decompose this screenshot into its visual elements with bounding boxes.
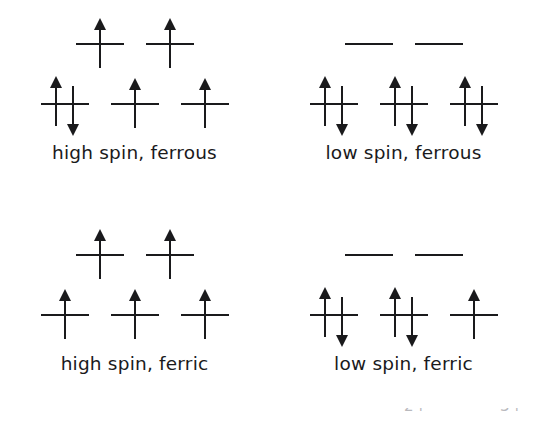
electron-arrow-up: [128, 78, 142, 130]
config-label: high spin, ferrous: [0, 142, 269, 163]
electron-arrow-up: [93, 229, 107, 281]
orbital-t2g-1: [307, 78, 361, 134]
orbital-line: [345, 254, 393, 256]
orbital-level-eg: [0, 229, 269, 285]
electron-arrow-down: [335, 84, 349, 136]
electron-arrow-up: [58, 289, 72, 341]
orbital-t2g-2: [377, 289, 431, 345]
orbital-eg-2: [143, 18, 197, 74]
orbital-line: [345, 43, 393, 45]
electron-arrow-up: [163, 18, 177, 70]
orbital-eg-1: [342, 18, 396, 74]
orbital-eg-2: [143, 229, 197, 285]
electron-arrow-down: [475, 84, 489, 136]
electron-arrow-up: [163, 229, 177, 281]
electron-arrow-up: [198, 289, 212, 341]
electron-arrow-up: [318, 76, 332, 128]
electron-arrow-up: [93, 18, 107, 70]
orbital-eg-1: [342, 229, 396, 285]
orbital-t2g-2: [108, 289, 162, 345]
cropped-superscript-artifact: 2+ 3+: [404, 408, 538, 422]
orbital-t2g-3: [178, 78, 232, 134]
config-panel-high-spin-ferrous: high spin, ferrous: [0, 0, 269, 211]
orbital-level-t2g: [269, 78, 538, 134]
orbital-level-eg: [269, 229, 538, 285]
config-panel-high-spin-ferric: high spin, ferric: [0, 211, 269, 422]
config-label: high spin, ferric: [0, 353, 269, 374]
config-label: low spin, ferrous: [269, 142, 538, 163]
electron-arrow-up: [388, 76, 402, 128]
electron-arrow-up: [128, 289, 142, 341]
figure-canvas: high spin, ferrous low spin, ferrous hig…: [0, 0, 538, 422]
orbital-level-t2g: [0, 78, 269, 134]
orbital-eg-1: [73, 18, 127, 74]
orbital-level-t2g: [269, 289, 538, 345]
orbital-t2g-2: [377, 78, 431, 134]
orbital-t2g-3: [447, 289, 501, 345]
electron-arrow-down: [66, 84, 80, 136]
orbital-level-eg: [269, 18, 538, 74]
orbital-line: [415, 254, 463, 256]
orbital-line: [415, 43, 463, 45]
orbital-t2g-1: [38, 289, 92, 345]
electron-arrow-up: [318, 287, 332, 339]
orbital-t2g-1: [38, 78, 92, 134]
orbital-t2g-2: [108, 78, 162, 134]
orbital-eg-1: [73, 229, 127, 285]
orbital-eg-2: [412, 18, 466, 74]
electron-arrow-down: [405, 295, 419, 347]
orbital-level-t2g: [0, 289, 269, 345]
electron-arrow-down: [335, 295, 349, 347]
cropped-superscript-a: 2+: [404, 408, 428, 415]
orbital-level-eg: [0, 18, 269, 74]
orbital-eg-2: [412, 229, 466, 285]
orbital-t2g-1: [307, 289, 361, 345]
config-panel-low-spin-ferric: low spin, ferric: [269, 211, 538, 422]
electron-arrow-up: [458, 76, 472, 128]
electron-arrow-up: [49, 76, 63, 128]
electron-arrow-up: [467, 289, 481, 341]
orbital-t2g-3: [447, 78, 501, 134]
electron-arrow-up: [388, 287, 402, 339]
config-panel-low-spin-ferrous: low spin, ferrous: [269, 0, 538, 211]
config-label: low spin, ferric: [269, 353, 538, 374]
electron-arrow-down: [405, 84, 419, 136]
cropped-superscript-b: 3+: [500, 408, 524, 415]
orbital-t2g-3: [178, 289, 232, 345]
electron-arrow-up: [198, 78, 212, 130]
